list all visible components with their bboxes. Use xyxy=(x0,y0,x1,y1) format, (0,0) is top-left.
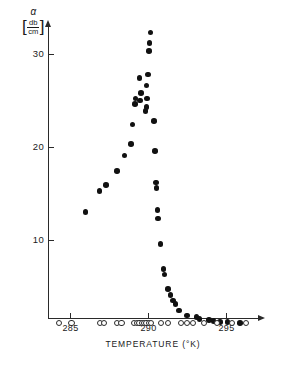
data-point-attenuation-filled-4 xyxy=(122,153,128,159)
data-point-attenuation-filled-1 xyxy=(97,188,103,194)
data-point-attenuation-filled-26 xyxy=(158,241,164,247)
data-point-baseline-open-19 xyxy=(201,320,207,326)
y-tick-10 xyxy=(49,240,54,241)
bracket-close: ] xyxy=(40,20,45,34)
unit-denominator: cm xyxy=(27,28,39,37)
x-tick-290 xyxy=(148,313,149,318)
data-point-baseline-open-3 xyxy=(101,320,107,326)
x-tick-295 xyxy=(226,313,227,318)
data-point-attenuation-filled-20 xyxy=(151,118,157,124)
y-tick-label-10: 10 xyxy=(21,235,44,245)
data-point-attenuation-filled-33 xyxy=(176,308,182,314)
y-tick-label-20: 20 xyxy=(21,142,44,152)
y-tick-30 xyxy=(49,54,54,55)
data-point-attenuation-filled-34 xyxy=(184,313,190,319)
data-point-attenuation-filled-13 xyxy=(144,104,150,110)
x-tick-285 xyxy=(70,313,71,318)
y-tick-label-30: 30 xyxy=(21,49,44,59)
data-point-attenuation-filled-16 xyxy=(145,72,151,78)
data-point-baseline-open-22 xyxy=(243,320,249,326)
data-point-baseline-open-18 xyxy=(190,320,196,326)
data-point-baseline-open-15 xyxy=(165,320,171,326)
x-axis-arrow-icon xyxy=(258,315,265,321)
data-point-attenuation-filled-21 xyxy=(152,148,158,154)
unit-fraction: db cm xyxy=(27,19,40,37)
data-point-attenuation-filled-2 xyxy=(103,182,109,188)
y-axis-line xyxy=(48,26,49,318)
data-point-attenuation-filled-27 xyxy=(161,266,167,272)
data-point-attenuation-filled-6 xyxy=(130,122,136,128)
data-point-baseline-open-0 xyxy=(56,320,62,326)
y-axis-symbol: α xyxy=(22,7,45,18)
data-point-attenuation-filled-14 xyxy=(144,96,150,102)
data-point-attenuation-filled-3 xyxy=(114,168,120,174)
data-point-attenuation-filled-28 xyxy=(162,272,168,278)
data-point-attenuation-filled-24 xyxy=(155,207,161,213)
scatter-plot-figure: α [ db cm ] 102030 285290295 TEMPERATURE… xyxy=(0,0,282,376)
data-point-baseline-open-5 xyxy=(118,320,124,326)
data-point-baseline-open-13 xyxy=(148,320,154,326)
data-point-attenuation-filled-19 xyxy=(148,30,154,36)
y-axis-arrow-icon xyxy=(45,20,51,27)
data-point-attenuation-filled-17 xyxy=(146,48,152,54)
data-point-attenuation-filled-41 xyxy=(237,320,243,326)
x-axis-title: TEMPERATURE (°K) xyxy=(48,340,258,349)
data-point-attenuation-filled-23 xyxy=(154,185,160,191)
data-point-baseline-open-16 xyxy=(178,320,184,326)
y-tick-20 xyxy=(49,147,54,148)
data-point-baseline-open-1 xyxy=(68,320,74,326)
data-point-baseline-open-20 xyxy=(214,320,220,326)
data-point-attenuation-filled-11 xyxy=(137,75,143,81)
data-point-attenuation-filled-10 xyxy=(138,90,144,96)
data-point-attenuation-filled-7 xyxy=(132,101,138,107)
data-point-attenuation-filled-32 xyxy=(173,301,179,307)
data-point-attenuation-filled-15 xyxy=(144,83,150,89)
data-point-attenuation-filled-5 xyxy=(128,141,134,147)
y-axis-unit: [ db cm ] xyxy=(22,19,45,37)
data-point-attenuation-filled-0 xyxy=(83,209,89,215)
data-point-attenuation-filled-18 xyxy=(147,40,153,46)
data-point-attenuation-filled-9 xyxy=(137,98,143,104)
data-point-attenuation-filled-30 xyxy=(168,292,174,298)
data-point-attenuation-filled-25 xyxy=(155,216,161,222)
y-axis-label: α [ db cm ] xyxy=(22,7,45,37)
